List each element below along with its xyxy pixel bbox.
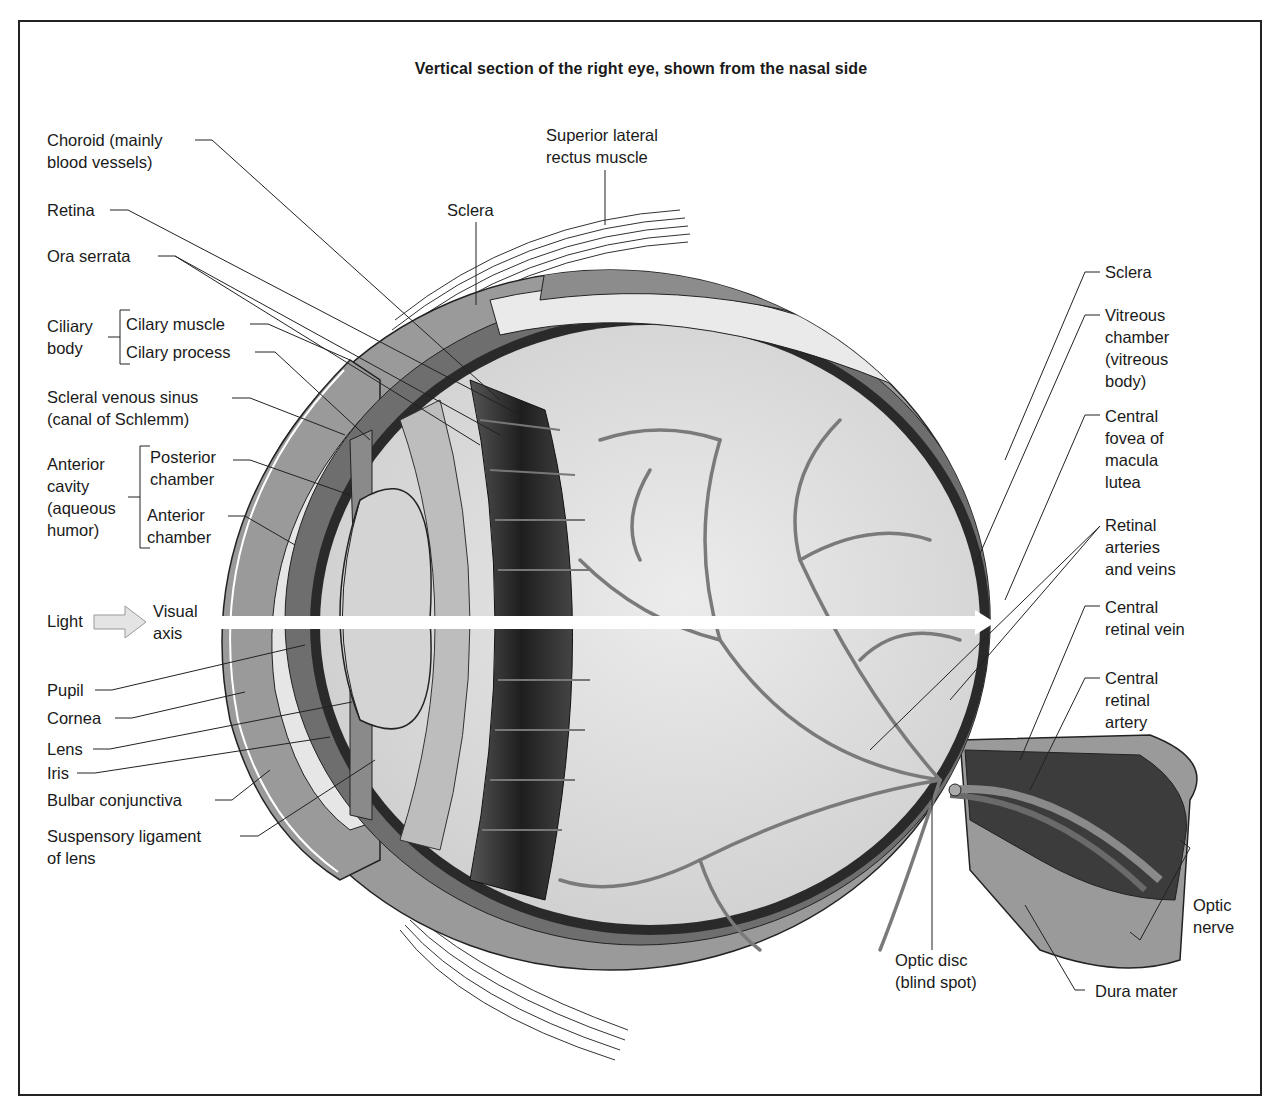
label-central-retinal-artery: Central retinal artery [1105, 667, 1158, 733]
label-posterior-chamber: Posterior chamber [150, 446, 216, 490]
label-visual-axis: Visual axis [153, 600, 198, 644]
label-central-fovea: Central fovea of macula lutea [1105, 405, 1164, 493]
label-suspensory-ligament: Suspensory ligament of lens [47, 825, 201, 869]
label-optic-nerve: Optic nerve [1193, 894, 1234, 938]
label-pupil: Pupil [47, 679, 84, 701]
label-bulbar-conjunctiva: Bulbar conjunctiva [47, 789, 182, 811]
label-retina: Retina [47, 199, 95, 221]
label-iris: Iris [47, 762, 69, 784]
label-dura-mater: Dura mater [1095, 980, 1178, 1002]
label-central-retinal-vein: Central retinal vein [1105, 596, 1185, 640]
label-retinal-arteries-veins: Retinal arteries and veins [1105, 514, 1176, 580]
label-ora-serrata: Ora serrata [47, 245, 130, 267]
label-ciliary-process: Cilary process [126, 341, 231, 363]
label-superior-lateral-rectus: Superior lateral rectus muscle [546, 124, 658, 168]
label-vitreous-chamber: Vitreous chamber (vitreous body) [1105, 304, 1169, 392]
label-ciliary-body: Ciliary body [47, 315, 93, 359]
label-ciliary-muscle: Cilary muscle [126, 313, 225, 335]
optic-disc [949, 784, 961, 796]
label-lens: Lens [47, 738, 83, 760]
light-arrow-icon [94, 606, 146, 638]
label-choroid: Choroid (mainly blood vessels) [47, 129, 163, 173]
label-anterior-chamber: Anterior chamber [147, 504, 211, 548]
optic-nerve [950, 735, 1197, 968]
label-optic-disc: Optic disc (blind spot) [895, 949, 977, 993]
label-light: Light [47, 610, 83, 632]
label-cornea: Cornea [47, 707, 101, 729]
label-sclera-right: Sclera [1105, 261, 1152, 283]
label-anterior-cavity: Anterior cavity (aqueous humor) [47, 453, 116, 541]
label-scleral-venous-sinus: Scleral venous sinus (canal of Schlemm) [47, 386, 198, 430]
label-sclera-top: Sclera [447, 199, 494, 221]
